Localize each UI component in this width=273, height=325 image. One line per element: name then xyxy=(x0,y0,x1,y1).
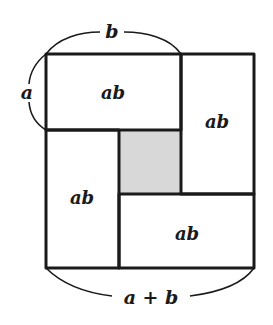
left-brace-bottom xyxy=(29,102,46,130)
top-brace-right xyxy=(124,32,181,54)
left-brace-top xyxy=(29,54,46,84)
label-rect-right: ab xyxy=(205,111,229,132)
label-rect-top-left: ab xyxy=(101,82,125,103)
center-square xyxy=(119,130,181,194)
square-proof-diagram: b a a + b ab ab ab ab xyxy=(0,0,273,325)
label-rect-bottom-right: ab xyxy=(175,223,199,244)
label-rect-bottom-left: ab xyxy=(70,187,94,208)
label-b: b xyxy=(105,20,118,42)
label-a-plus-b: a + b xyxy=(124,286,179,308)
bottom-brace-left xyxy=(46,268,112,296)
bottom-brace-right xyxy=(190,268,254,296)
top-brace xyxy=(46,32,100,54)
label-a: a xyxy=(21,81,33,103)
